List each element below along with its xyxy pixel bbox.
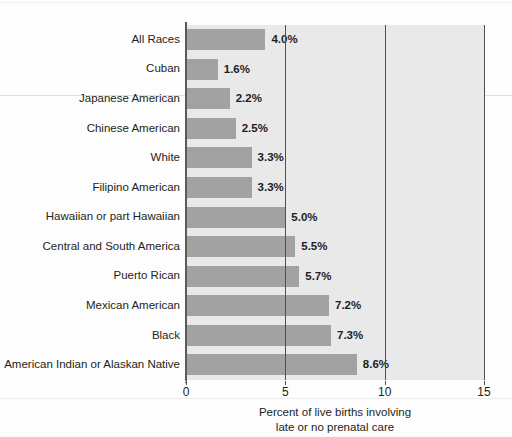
category-label: Hawaiian or part Hawaiian — [0, 210, 180, 222]
category-label: Japanese American — [0, 92, 180, 104]
bar — [186, 325, 331, 346]
gridline — [385, 25, 386, 380]
gridline — [484, 25, 485, 380]
gridline — [285, 25, 286, 380]
bar — [186, 177, 252, 198]
x-axis-spine — [185, 381, 485, 382]
bar-value-label: 1.6% — [218, 59, 250, 80]
bar-value-label: 4.0% — [265, 29, 297, 50]
bar — [186, 354, 357, 375]
bar-value-label: 7.2% — [329, 295, 361, 316]
bar-value-label: 2.2% — [230, 88, 262, 109]
bar-value-label: 5.0% — [285, 207, 317, 228]
x-axis-title-line-2: late or no prenatal care — [186, 420, 484, 435]
bar-value-label: 5.5% — [295, 236, 327, 257]
bar — [186, 118, 236, 139]
bar — [186, 207, 285, 228]
bar — [186, 236, 295, 257]
bar-chart-figure: 4.0%1.6%2.2%2.5%3.3%3.3%5.0%5.5%5.7%7.2%… — [0, 0, 512, 437]
category-label: American Indian or Alaskan Native — [0, 358, 180, 370]
category-label: Central and South America — [0, 240, 180, 252]
x-tick-label: 10 — [378, 385, 391, 399]
scan-artifact-top — [0, 2, 512, 3]
bar — [186, 88, 230, 109]
category-label: Mexican American — [0, 299, 180, 311]
bar-value-label: 5.7% — [299, 266, 331, 287]
category-label: Puerto Rican — [0, 269, 180, 281]
category-label: Chinese American — [0, 122, 180, 134]
x-tick-label: 0 — [183, 385, 190, 399]
bar-value-label: 3.3% — [252, 177, 284, 198]
scan-artifact-bottom — [0, 398, 512, 399]
bar — [186, 266, 299, 287]
y-axis-spine — [185, 22, 187, 383]
category-label: Cuban — [0, 62, 180, 74]
x-tick-label: 15 — [477, 385, 490, 399]
bar — [186, 29, 265, 50]
category-label: Filipino American — [0, 181, 180, 193]
bar-value-label: 2.5% — [236, 118, 268, 139]
x-axis-title: Percent of live births involving late or… — [186, 405, 484, 434]
bar — [186, 147, 252, 168]
category-label: Black — [0, 329, 180, 341]
bar-value-label: 7.3% — [331, 325, 363, 346]
bar-value-label: 3.3% — [252, 147, 284, 168]
category-label: All Races — [0, 33, 180, 45]
category-label: White — [0, 151, 180, 163]
bar — [186, 59, 218, 80]
bar — [186, 295, 329, 316]
x-tick-label: 5 — [282, 385, 289, 399]
x-axis-title-line-1: Percent of live births involving — [186, 405, 484, 420]
